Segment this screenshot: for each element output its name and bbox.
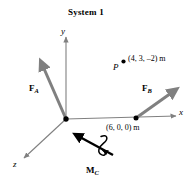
moment-c-label: MC: [86, 166, 99, 177]
y-axis-label: y: [61, 27, 65, 36]
point-b-dot: [134, 116, 139, 121]
z-axis: [24, 119, 66, 158]
statics-free-body-diagram: System 1 y x z FA FB MC P (4, 3, –2) m (…: [0, 0, 195, 185]
force-b-subscript: B: [148, 87, 152, 94]
moment-vector-group: [78, 136, 113, 156]
force-vector-group: [42, 64, 174, 119]
point-b-coordinates: (6, 0, 0) m: [106, 124, 140, 132]
x-axis-label: x: [179, 108, 183, 117]
origin-dot: [63, 116, 68, 121]
force-a-label: FA: [29, 84, 39, 95]
point-p-dot: [121, 59, 125, 63]
force-a-subscript: A: [35, 87, 39, 94]
point-p-label: P: [113, 63, 119, 72]
point-p-coordinates: (4, 3, –2) m: [128, 55, 166, 63]
z-axis-label: z: [13, 160, 17, 169]
force-a-arrow: [42, 64, 66, 119]
moment-c-symbol: M: [86, 165, 95, 175]
moment-c-rotation-curl: [99, 136, 107, 156]
moment-c-subscript: C: [95, 169, 99, 176]
x-axis: [66, 116, 176, 119]
force-b-label: FB: [142, 84, 152, 95]
figure-title: System 1: [68, 8, 104, 17]
node-dot-group: [63, 59, 138, 121]
force-b-arrow: [136, 91, 174, 118]
moment-c-arrow: [78, 136, 113, 155]
